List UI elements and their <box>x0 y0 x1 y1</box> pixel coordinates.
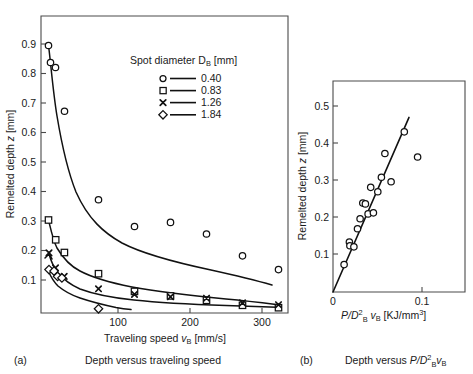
square-marker <box>160 88 166 94</box>
curve-series-040 <box>49 46 273 286</box>
markers-series-083 <box>45 217 281 311</box>
markers-series-184 <box>45 265 103 313</box>
legend-label-126: 1.26 <box>201 96 222 108</box>
legend-label-184: 1.84 <box>201 108 222 120</box>
panel-b-xlabel-p: P/D <box>341 309 359 321</box>
panel-b-y-axis-title: Remelted depth z [mm] <box>296 132 308 241</box>
cross-marker <box>160 100 166 106</box>
panel-a-ytick-8: 0.1 <box>21 274 36 286</box>
panel-a-ytick-3: 0.6 <box>21 126 36 138</box>
panel-a-ylabel-main: Remelted depth <box>4 141 16 218</box>
caption-b-text: Depth versus P/D2BvB <box>345 353 447 369</box>
panel-a-xtick-0: 100 <box>109 316 127 328</box>
panel-b-x-axis-title: P/D2B vB [KJ/mm3] <box>341 308 426 324</box>
panel-b-ytick-2: 0.3 <box>314 174 329 186</box>
curve-series-083 <box>49 220 277 305</box>
svg-text:Remelted depth z [mm]: Remelted depth z [mm] <box>4 110 16 219</box>
panel-a-ytick-6: 0.3 <box>21 215 36 227</box>
panel-b-xlabel-unit: [KJ/mm <box>384 309 420 321</box>
panel-b-ytick-4: 0.1 <box>314 248 329 260</box>
panel-a-ytick-7: 0.2 <box>21 244 36 256</box>
panel-b-ylabel-unit: [mm] <box>296 132 308 158</box>
legend-title-unit: [mm] <box>211 54 237 66</box>
panel-a-y-axis-title: Remelted depth z [mm] <box>4 110 16 219</box>
panel-a-xtick-1: 200 <box>181 316 199 328</box>
legend-entry-184[interactable]: 1.84 <box>159 108 222 120</box>
panel-a-ytick-5: 0.4 <box>21 185 36 197</box>
legend-title-main: Spot diameter D <box>130 54 206 66</box>
panel-b-xtick-1: 0.1 <box>415 295 430 307</box>
panel-a-ytick-2: 0.7 <box>21 97 36 109</box>
legend-entry-083[interactable]: 0.83 <box>160 84 222 96</box>
panel-a-xtick-2: 300 <box>253 316 271 328</box>
panel-a: 0.9 0.8 0.7 0.6 0.5 0.4 0.3 0.2 0.1 100 … <box>4 16 288 346</box>
panel-b-ylabel-main: Remelted depth <box>296 163 308 240</box>
panel-a-ylabel-unit: [mm] <box>4 110 16 136</box>
panel-a-ytick-0: 0.9 <box>21 38 36 50</box>
captions: (a) Depth versus traveling speed (b) Dep… <box>14 353 447 369</box>
legend-label-083: 0.83 <box>201 84 222 96</box>
panel-b-frame <box>333 81 465 292</box>
caption-b-expr-vsub: B <box>442 359 447 368</box>
panel-b: 0.5 0.4 0.3 0.2 0.1 0 0.1 Remelted depth… <box>296 81 465 324</box>
panel-a-y-ticks <box>41 44 46 280</box>
panel-a-x-axis-title: Traveling speed vB [mm/s] <box>104 332 226 346</box>
panel-b-scatter-points <box>341 129 421 268</box>
panel-b-ytick-0: 0.5 <box>314 100 329 112</box>
caption-a-tag: (a) <box>14 354 27 366</box>
panel-a-xlabel-main: Traveling speed <box>104 332 181 344</box>
figure-root: 0.9 0.8 0.7 0.6 0.5 0.4 0.3 0.2 0.1 100 … <box>0 0 473 374</box>
circle-marker <box>160 76 166 82</box>
diamond-marker <box>159 111 167 119</box>
caption-b-tag: (b) <box>300 354 313 366</box>
panel-b-ytick-3: 0.2 <box>314 211 329 223</box>
panel-b-xlabel-unit-end: ] <box>423 309 426 321</box>
legend-title: Spot diameter DB [mm] <box>130 54 237 68</box>
svg-text:Remelted depth z [mm]: Remelted depth z [mm] <box>296 132 308 241</box>
figure-svg: 0.9 0.8 0.7 0.6 0.5 0.4 0.3 0.2 0.1 100 … <box>0 0 473 374</box>
caption-b-prefix: Depth versus <box>345 354 410 366</box>
legend-entry-126[interactable]: 1.26 <box>160 96 221 108</box>
panel-b-xtick-0: 0 <box>330 295 336 307</box>
caption-a-text: Depth versus traveling speed <box>85 354 221 366</box>
caption-b-expr-p: P/D <box>410 354 428 366</box>
legend-entry-040[interactable]: 0.40 <box>160 72 222 84</box>
panel-b-ytick-1: 0.4 <box>314 137 329 149</box>
legend: Spot diameter DB [mm] 0.40 0.83 <box>130 54 237 120</box>
panel-a-xlabel-unit: [mm/s] <box>192 332 226 344</box>
panel-b-y-ticks <box>333 106 338 254</box>
panel-a-ytick-1: 0.8 <box>21 67 36 79</box>
panel-a-ytick-4: 0.5 <box>21 156 36 168</box>
legend-label-040: 0.40 <box>201 72 222 84</box>
